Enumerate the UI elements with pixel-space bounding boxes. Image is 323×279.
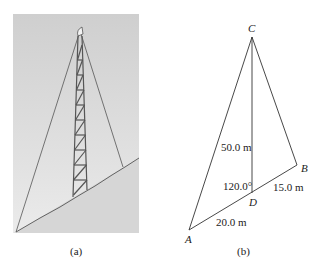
figure-canvas: (a) C B D A 50.0 m 120.0° 15.0 m 20.0 m … xyxy=(0,0,323,279)
edge-cb xyxy=(252,37,297,165)
triangle-diagram xyxy=(189,37,297,230)
point-c-label: C xyxy=(248,22,256,34)
point-d-label: D xyxy=(248,196,257,208)
db-length-label: 15.0 m xyxy=(273,181,304,193)
point-a-label: A xyxy=(184,233,192,245)
edge-ca xyxy=(189,37,252,230)
ad-length-label: 20.0 m xyxy=(216,216,247,228)
angle-label: 120.0° xyxy=(223,180,252,192)
tower-illustration xyxy=(13,14,139,233)
cd-length-label: 50.0 m xyxy=(221,141,252,153)
point-b-label: B xyxy=(301,162,308,174)
caption-a: (a) xyxy=(70,245,83,258)
caption-b: (b) xyxy=(237,245,250,258)
